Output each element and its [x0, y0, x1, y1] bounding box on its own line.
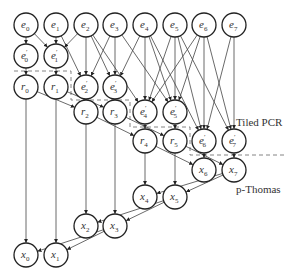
- node-r0: r0: [14, 75, 38, 99]
- node-r2: r2: [74, 100, 98, 124]
- node-ep7: e′7: [222, 129, 246, 153]
- node-x2: x2: [74, 214, 98, 238]
- node-r4: r4: [133, 129, 157, 153]
- node-ep1: e′1: [44, 44, 68, 68]
- node-ep5: e′5: [163, 100, 187, 124]
- p-thomas-label: p-Thomas: [236, 183, 281, 195]
- node-r3: r3: [103, 100, 127, 124]
- node-x5: x5: [163, 185, 187, 209]
- node-x4: x4: [133, 185, 157, 209]
- node-e6: e6: [192, 13, 216, 37]
- node-r5: r5: [163, 129, 187, 153]
- node-e0: e0: [14, 13, 38, 37]
- node-e4: e4: [133, 13, 157, 37]
- node-ep2: e′2: [74, 75, 98, 99]
- node-e7: e7: [222, 13, 246, 37]
- node-e2: e2: [74, 13, 98, 37]
- edge-e2-to-ep1: [65, 34, 78, 47]
- node-x1: x1: [44, 243, 68, 267]
- node-layer: e0e1e2e3e4e5e6e7e′0e′1r0r1e′2e′3r2r3e′4e…: [14, 13, 246, 267]
- node-r1: r1: [44, 75, 68, 99]
- node-x0: x0: [14, 243, 38, 267]
- node-e3: e3: [103, 13, 127, 37]
- node-x3: x3: [103, 214, 127, 238]
- node-ep6: e′6: [192, 129, 216, 153]
- node-ep4: e′4: [133, 100, 157, 124]
- edge-e0-to-ep1: [34, 34, 47, 47]
- node-x6: x6: [192, 158, 216, 182]
- tiled-pcr-pthomas-diagram: e0e1e2e3e4e5e6e7e′0e′1r0r1e′2e′3r2r3e′4e…: [0, 0, 295, 279]
- node-ep3: e′3: [103, 75, 127, 99]
- tiled-pcr-label: Tiled PCR: [236, 116, 283, 128]
- node-x7: x7: [222, 158, 246, 182]
- node-e5: e5: [163, 13, 187, 37]
- edge-e4-to-ep3: [120, 36, 139, 76]
- node-ep0: e′0: [14, 44, 38, 68]
- node-e1: e1: [44, 13, 68, 37]
